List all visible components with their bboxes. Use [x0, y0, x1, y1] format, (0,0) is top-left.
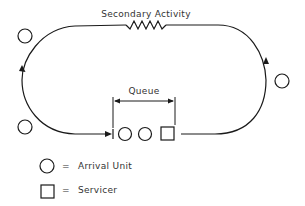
secondary-activity-label: Secondary Activity — [101, 9, 191, 19]
legend-circle-icon — [40, 159, 54, 173]
queue-label: Queue — [128, 86, 159, 96]
queue-loop-diagram: Secondary Activity Queue = Arrival Unit … — [0, 0, 305, 206]
legend-equals-2: = — [62, 185, 70, 195]
queue-arrival-unit-2 — [139, 128, 152, 141]
arrow-up-right-icon — [263, 57, 269, 64]
arrival-unit-bottom-left — [18, 120, 32, 134]
queue-servicer — [161, 127, 174, 140]
arrow-into-queue-icon — [105, 131, 112, 137]
loop-path — [22, 21, 266, 134]
legend-equals-1: = — [62, 161, 70, 171]
queue-bracket — [113, 97, 175, 128]
arrival-unit-right — [275, 74, 289, 88]
legend-square-icon — [41, 185, 54, 198]
legend: = Arrival Unit = Servicer — [40, 159, 132, 198]
arrival-unit-top-left — [18, 29, 32, 43]
secondary-activity-resistor — [126, 21, 166, 29]
legend-servicer-label: Servicer — [78, 185, 117, 195]
legend-arrival-unit-label: Arrival Unit — [78, 161, 132, 171]
queue-arrival-unit-1 — [119, 128, 132, 141]
